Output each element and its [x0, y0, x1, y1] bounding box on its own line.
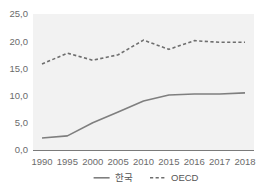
x-axis-tick-label: 1995 [57, 156, 78, 167]
x-axis-tick-label: 2015 [158, 156, 179, 167]
y-axis-tick-labels: 0,05,010,015,020,025,0 [10, 8, 29, 155]
x-axis-tick-label: 1990 [31, 156, 52, 167]
y-axis-tick-label: 5,0 [15, 117, 28, 128]
chart-legend: 한국OECD [94, 172, 199, 183]
plot-area-background [33, 14, 254, 150]
legend-label: OECD [171, 172, 199, 183]
line-chart: 0,05,010,015,020,025,0 19901995200020052… [0, 0, 257, 189]
x-axis-tick-labels: 199019952000200520102015201620172018 [31, 156, 255, 167]
x-axis-tick-label: 2005 [108, 156, 129, 167]
x-axis-tick-label: 2016 [184, 156, 205, 167]
y-axis-tick-label: 20,0 [10, 36, 29, 47]
y-axis-tick-label: 10,0 [10, 90, 29, 101]
x-axis-tick-label: 2018 [234, 156, 255, 167]
x-axis-tick-label: 2017 [209, 156, 230, 167]
legend-label: 한국 [115, 172, 133, 183]
chart-canvas: 0,05,010,015,020,025,0 19901995200020052… [0, 0, 257, 189]
x-axis-tick-label: 2000 [82, 156, 103, 167]
y-axis-tick-label: 15,0 [10, 63, 29, 74]
y-axis-tick-label: 25,0 [10, 8, 29, 19]
y-axis-tick-label: 0,0 [15, 144, 28, 155]
x-axis-tick-label: 2010 [133, 156, 154, 167]
